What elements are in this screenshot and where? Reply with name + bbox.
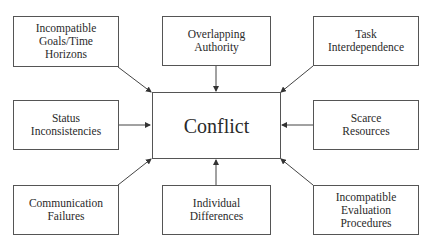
box-status-inconsistencies: Status Inconsistencies — [13, 100, 119, 150]
center-label: Conflict — [184, 115, 250, 137]
box-label: Overlapping Authority — [188, 28, 245, 54]
box-scarce-resources: Scarce Resources — [313, 100, 419, 150]
arrow-goals — [118, 67, 151, 92]
box-overlapping-authority: Overlapping Authority — [162, 16, 271, 66]
box-label: Status Inconsistencies — [31, 112, 101, 138]
box-incompatible-evaluation: Incompatible Evaluation Procedures — [313, 185, 419, 235]
box-conflict: Conflict — [152, 92, 281, 159]
arrow-evaluation — [281, 159, 313, 185]
box-communication-failures: Communication Failures — [13, 185, 119, 235]
box-label: Incompatible Goals/Time Horizons — [36, 22, 97, 61]
box-label: Communication Failures — [29, 197, 103, 223]
box-individual-differences: Individual Differences — [162, 185, 271, 235]
box-task-interdependence: Task Interdependence — [313, 16, 419, 66]
arrow-task — [281, 66, 313, 92]
box-label: Incompatible Evaluation Procedures — [336, 191, 397, 230]
box-label: Individual Differences — [190, 197, 243, 223]
arrow-communication — [118, 159, 151, 185]
box-label: Scarce Resources — [342, 112, 389, 138]
box-label: Task Interdependence — [328, 28, 404, 54]
box-incompatible-goals: Incompatible Goals/Time Horizons — [13, 16, 119, 67]
